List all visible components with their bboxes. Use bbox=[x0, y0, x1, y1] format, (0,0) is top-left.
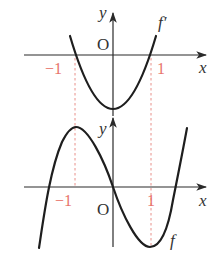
lower-x-label: x bbox=[198, 191, 207, 210]
upper-tick-neg1: −1 bbox=[45, 60, 62, 77]
upper-x-label: x bbox=[198, 58, 207, 77]
diagram-canvas: y O x f′ −1 1 y O x f −1 1 bbox=[0, 0, 224, 273]
lower-graph: y O x f −1 1 bbox=[24, 118, 207, 250]
upper-tick-pos1: 1 bbox=[157, 60, 165, 77]
lower-origin-label: O bbox=[97, 200, 109, 219]
function-label: f bbox=[170, 231, 177, 250]
upper-origin-label: O bbox=[97, 35, 109, 54]
lower-tick-neg1: −1 bbox=[55, 192, 72, 209]
lower-tick-pos1: 1 bbox=[147, 192, 155, 209]
upper-y-label: y bbox=[97, 3, 107, 22]
derivative-label: f′ bbox=[158, 13, 167, 32]
lower-y-label: y bbox=[97, 119, 107, 138]
upper-graph: y O x f′ −1 1 bbox=[24, 3, 207, 116]
